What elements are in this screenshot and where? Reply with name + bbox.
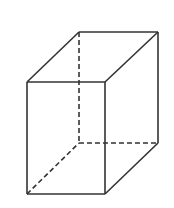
hidden-edges-dashed xyxy=(27,32,158,194)
prism-diagram xyxy=(0,0,174,208)
visible-edges xyxy=(27,32,158,194)
hidden-edge-front_bottom_left-to-back_bottom_left xyxy=(27,143,79,194)
edge-front_bottom_right-to-back_bottom_right xyxy=(105,143,158,194)
edge-front_top_left-to-back_top_left xyxy=(27,32,79,82)
edge-front_top_right-to-back_top_right xyxy=(105,32,158,82)
